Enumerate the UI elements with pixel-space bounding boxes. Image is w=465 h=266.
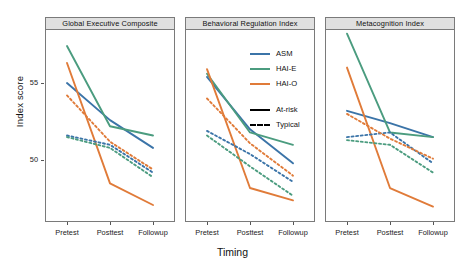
chart-figure: Index score Timing 5055 Global Executive… [0,0,465,266]
y-axis-title: Index score [14,57,25,147]
x-axis-tick-mark [433,222,434,225]
x-axis-tick-label: Followup [268,228,318,237]
chart-panel: Metacognition Index [325,17,455,222]
series-line [347,140,433,172]
x-axis-tick-mark [293,222,294,225]
legend-label: Typical [276,120,300,129]
x-axis-tick-label: Followup [408,228,458,237]
legend-item: Typical [250,117,312,132]
legend-label: ASM [276,49,292,58]
series-line [207,131,293,182]
legend-line-swatch [250,68,270,70]
series-line [347,68,433,207]
x-axis-tick-mark [153,222,154,225]
legend-label: At-risk [276,105,298,114]
legend-item: HAI-E [250,61,312,76]
legend-spacer [250,91,312,102]
legend-line-swatch [250,83,270,85]
series-line [67,46,153,136]
legend-item: HAI-O [250,76,312,91]
chart-legend: ASMHAI-EHAI-O At-riskTypical [250,46,312,132]
legend-line-swatch [250,53,270,55]
legend-style-swatch [250,124,270,126]
legend-item: At-risk [250,102,312,117]
y-axis-tick-mark [41,83,44,84]
x-axis-tick-mark [110,222,111,225]
x-axis-tick-mark [250,222,251,225]
legend-label: HAI-E [276,64,296,73]
legend-label: HAI-O [276,79,297,88]
x-axis-tick-mark [390,222,391,225]
series-line [67,63,153,205]
y-axis-tick-label: 50 [20,155,38,164]
x-axis-tick-label: Followup [128,228,178,237]
x-axis-tick-mark [347,222,348,225]
y-axis-tick-label: 55 [20,78,38,87]
legend-style-swatch [250,109,270,111]
x-axis-tick-mark [67,222,68,225]
legend-item: ASM [250,46,312,61]
y-axis-tick-mark [41,160,44,161]
series-line [347,132,433,163]
chart-panel: Global Executive Composite [45,17,175,222]
x-axis-tick-mark [207,222,208,225]
legend-color-group: ASMHAI-EHAI-O [250,46,312,91]
series-line [67,137,153,177]
legend-style-group: At-riskTypical [250,102,312,132]
